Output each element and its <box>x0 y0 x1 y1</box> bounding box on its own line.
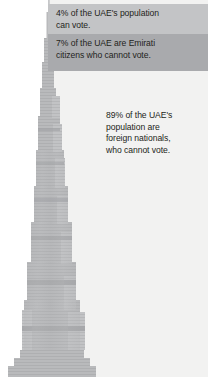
callout-foreign-line-4: who cannot vote. <box>106 145 202 157</box>
tower-mullions-2 <box>27 262 76 310</box>
callout-emirati-citizens: 7% of the UAE are Emirati citizens who c… <box>48 34 208 71</box>
callout-emirati-line-1: 7% of the UAE are Emirati <box>56 38 201 50</box>
callout-can-vote: 4% of the UAE's population can vote. <box>48 4 208 34</box>
tower-mullions-4 <box>34 186 68 224</box>
callout-emirati-line-2: citizens who cannot vote. <box>56 50 201 62</box>
callout-foreign-line-1: 89% of the UAE's <box>106 110 202 122</box>
tower-mullions-3 <box>31 222 72 264</box>
callout-foreign-line-2: population are <box>106 122 202 134</box>
tower-podium-2 <box>14 358 90 366</box>
callout-foreign-line-3: foreign nationals, <box>106 133 202 145</box>
tower-band-6 <box>38 128 60 131</box>
tower-wing-right-7 <box>52 96 60 118</box>
infographic-canvas: 4% of the UAE's population can vote. 7% … <box>0 0 208 377</box>
tower-podium <box>8 366 96 377</box>
callout-can-vote-line-1: 4% of the UAE's population <box>56 8 201 20</box>
tower-podium-3 <box>20 350 84 358</box>
tower-mullions-5 <box>36 150 64 188</box>
callout-foreign-nationals: 89% of the UAE's population are foreign … <box>106 110 202 156</box>
callout-can-vote-line-2: can vote. <box>56 20 201 32</box>
